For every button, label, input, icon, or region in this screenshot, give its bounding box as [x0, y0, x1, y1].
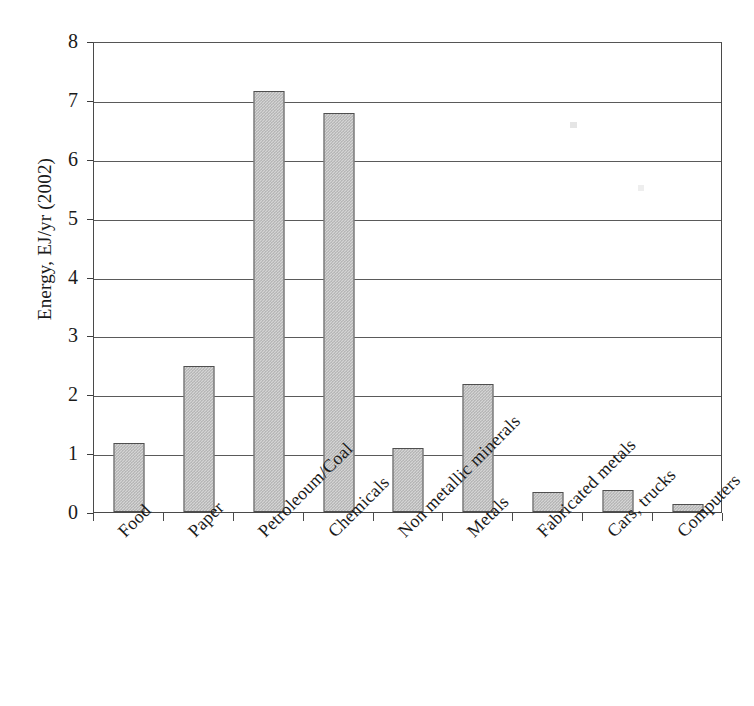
y-axis-tick-label: 2 [52, 384, 78, 404]
y-axis-tick-label: 1 [52, 443, 78, 463]
y-axis-tick-label: 8 [52, 31, 78, 51]
y-axis-tick-label: 6 [52, 149, 78, 169]
y-axis-tick-label: 5 [52, 208, 78, 228]
scan-artifact-speck [570, 122, 577, 128]
x-axis-tick-mark [303, 513, 304, 521]
x-axis-tick-mark [442, 513, 443, 521]
x-axis-tick-mark [722, 513, 723, 521]
bar-chart-figure: Energy, EJ/yr (2002) 876543210 FoodPaper… [0, 0, 754, 706]
x-axis-tick-mark [652, 513, 653, 521]
x-axis-tick-mark [233, 513, 234, 521]
x-axis-tick-mark [582, 513, 583, 521]
x-axis-tick-mark [373, 513, 374, 521]
bar-slot [513, 43, 583, 512]
bar [183, 366, 214, 512]
x-axis-tick-mark [512, 513, 513, 521]
scan-artifact-speck [638, 185, 644, 191]
bar-slot [374, 43, 444, 512]
bar-slot [234, 43, 304, 512]
y-axis-tick-label: 7 [52, 90, 78, 110]
bar [253, 91, 284, 512]
y-axis-tick-label: 0 [52, 502, 78, 522]
x-axis-tick-mark [93, 513, 94, 521]
bar-slot [653, 43, 723, 512]
y-axis-tick-label: 3 [52, 325, 78, 345]
bar-slot [94, 43, 164, 512]
x-axis-tick-mark [163, 513, 164, 521]
bar-slot [164, 43, 234, 512]
y-axis-tick-label: 4 [52, 267, 78, 287]
